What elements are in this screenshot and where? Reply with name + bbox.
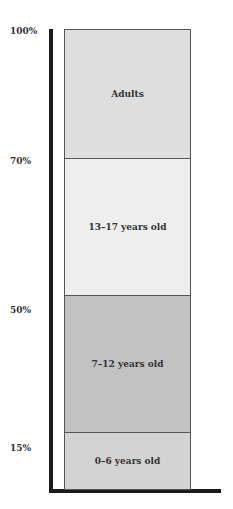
y-tick-15: 15% — [10, 443, 31, 453]
segment-7-12: 7–12 years old — [64, 295, 191, 433]
y-tick-70: 70% — [10, 156, 31, 166]
segment-label: Adults — [111, 89, 143, 99]
y-axis-line — [49, 29, 53, 493]
segment-label: 7–12 years old — [92, 359, 164, 369]
y-tick-50: 50% — [10, 305, 31, 315]
segment-13-17: 13–17 years old — [64, 158, 191, 296]
y-tick-100: 100% — [10, 26, 37, 36]
segment-label: 13–17 years old — [88, 222, 166, 232]
segment-adults: Adults — [64, 29, 191, 159]
segment-label: 0–6 years old — [95, 456, 161, 466]
segment-0-6: 0–6 years old — [64, 432, 191, 490]
